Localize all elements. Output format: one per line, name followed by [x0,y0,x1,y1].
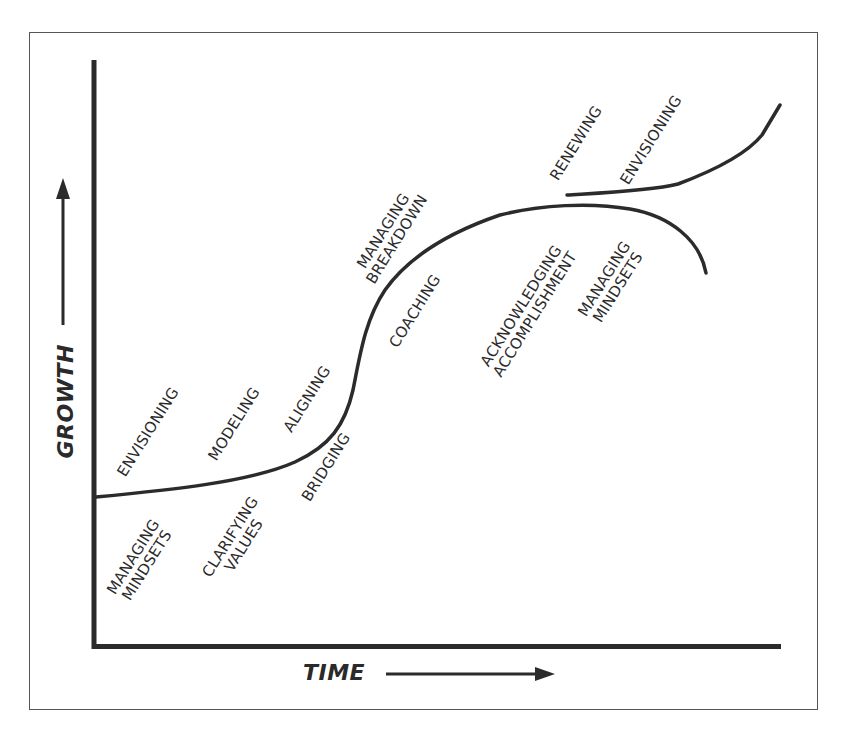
time-arrow-icon [386,667,555,681]
growth-curve-diagram [0,0,851,743]
y-axis-title: GROWTH [53,369,78,459]
growth-arrow-icon [56,178,70,325]
x-axis-title: TIME [303,660,365,685]
